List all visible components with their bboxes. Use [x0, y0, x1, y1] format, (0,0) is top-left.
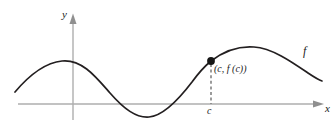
- curve-label-f: f: [303, 45, 306, 57]
- y-axis-arrow-icon: [70, 14, 77, 25]
- x-axis: [18, 100, 324, 107]
- marked-point-label: (c, f (c)): [214, 64, 246, 74]
- x-axis-arrow-icon: [313, 100, 324, 107]
- function-graph-figure: y x f c (c, f (c)): [0, 0, 336, 135]
- function-curve: [15, 47, 322, 117]
- graph-canvas: [0, 0, 336, 135]
- y-axis-label: y: [62, 9, 67, 20]
- x-axis-label: x: [325, 103, 330, 114]
- x-axis-tick-label-c: c: [207, 106, 211, 116]
